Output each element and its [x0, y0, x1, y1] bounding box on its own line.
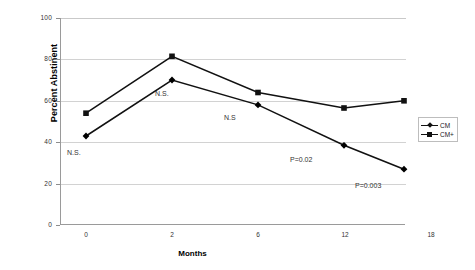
data-point-cm-plus-2 [169, 54, 175, 60]
annotation-18-months: P=0.003 [355, 182, 381, 189]
chart-figure: Percent Abstinent 100 80 60 40 20 0 0 2 … [0, 0, 475, 270]
legend-label-cm: CM [440, 122, 450, 129]
legend: CM CM+ [418, 117, 458, 142]
legend-marker-square-icon [421, 131, 438, 138]
legend-marker-diamond-icon [421, 122, 438, 129]
data-point-cm-plus-6 [255, 90, 261, 96]
legend-item-cm-plus: CM+ [421, 130, 454, 138]
data-point-cm-18 [401, 166, 408, 173]
data-point-cm-6 [255, 102, 262, 109]
data-point-cm-plus-12 [341, 105, 347, 111]
data-point-cm-12 [341, 142, 348, 149]
data-point-cm-plus-0 [83, 110, 89, 116]
annotation-6-months: N.S [224, 114, 236, 121]
annotation-12-months: P=0.02 [290, 156, 312, 163]
legend-item-cm: CM [421, 121, 454, 129]
legend-label-cm-plus: CM+ [440, 131, 454, 138]
annotation-0-months: N.S. [67, 149, 81, 156]
series-line-cm [86, 80, 404, 169]
series-layer [0, 0, 475, 270]
data-point-cm-plus-18 [401, 98, 407, 104]
annotation-2-months: N.S. [155, 90, 169, 97]
